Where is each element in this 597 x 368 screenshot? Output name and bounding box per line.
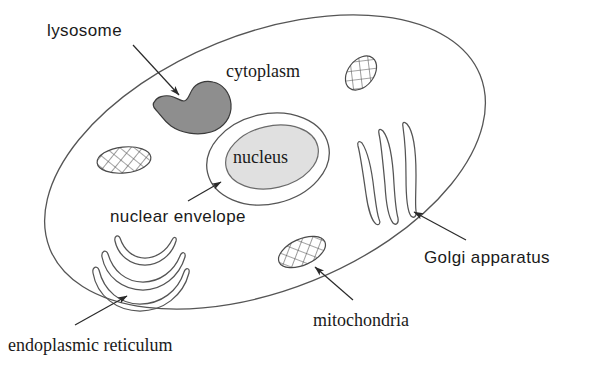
label-cytoplasm: cytoplasm: [226, 62, 300, 80]
label-lysosome: lysosome: [47, 22, 122, 39]
arrow-nuclear-envelope: [188, 182, 221, 201]
cell-diagram-canvas: [0, 0, 597, 368]
arrow-lysosome: [133, 45, 179, 95]
lysosome-organelle: [153, 81, 231, 133]
golgi-apparatus-organelle: [358, 122, 416, 224]
label-golgi-apparatus: Golgi apparatus: [424, 249, 550, 266]
arrow-endoplasmic-reticulum: [75, 296, 127, 325]
cell-diagram-page: lysosome cytoplasm nucleus nuclear envel…: [0, 0, 597, 368]
mitochondrion-left: [96, 144, 152, 176]
label-mitochondria: mitochondria: [313, 311, 409, 329]
arrow-golgi-apparatus: [414, 212, 466, 240]
mitochondrion-bottom: [274, 230, 330, 274]
mitochondrion-top-right: [339, 50, 383, 96]
label-nuclear-envelope: nuclear envelope: [110, 208, 246, 225]
label-nucleus: nucleus: [233, 148, 288, 166]
endoplasmic-reticulum-organelle: [93, 236, 189, 311]
label-endoplasmic-reticulum: endoplasmic reticulum: [8, 336, 172, 354]
